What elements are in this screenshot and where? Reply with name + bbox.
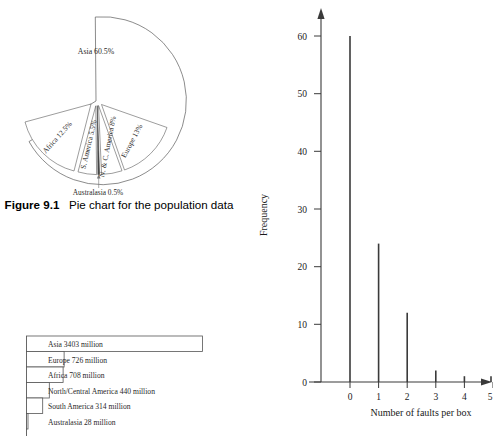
y-tick-label-10: 10 xyxy=(298,320,308,330)
figure-number-pie: Figure 9.1 xyxy=(5,198,60,211)
bar-label-europe: Europe 726 million xyxy=(48,356,107,365)
y-tick-label-60: 60 xyxy=(298,32,308,42)
page-canvas: Asia 60.5% Europe 13% N. & C. America 8%… xyxy=(0,0,493,444)
x-tick-label-2: 2 xyxy=(405,392,410,402)
pie-chart-svg: Asia 60.5% Europe 13% N. & C. America 8%… xyxy=(4,2,200,202)
y-tick-label-30: 30 xyxy=(298,205,308,215)
x-tick-label-3: 3 xyxy=(433,392,438,402)
figure-title-pie: Pie chart for the population data xyxy=(69,198,233,211)
y-tick-label-50: 50 xyxy=(298,89,308,99)
x-tick-label-5: 5 xyxy=(488,392,493,402)
x-tick-label-0: 0 xyxy=(348,392,353,402)
y-tick-label-20: 20 xyxy=(298,262,308,272)
y-tick-label-0: 0 xyxy=(302,378,307,388)
frequency-chart-svg: 0 10 20 30 40 50 60 0 1 2 3 4 5 xyxy=(245,0,493,444)
pie-chart-figure: Asia 60.5% Europe 13% N. & C. America 8%… xyxy=(0,0,245,250)
bar-label-south-america: South America 314 million xyxy=(48,402,131,411)
bar-label-australasia: Australasia 28 million xyxy=(48,418,116,427)
y-tick-label-40: 40 xyxy=(298,147,308,157)
population-bar-figure: Asia 3403 million Europe 726 million Afr… xyxy=(0,330,245,444)
pie-label-australasia: Australasia 0.5% xyxy=(73,188,124,197)
bar-label-north-central-america: North/Central America 440 million xyxy=(48,387,155,396)
bar-label-asia: Asia 3403 million xyxy=(48,340,103,349)
bar-label-africa: Africa 708 million xyxy=(48,371,105,380)
y-tick-marks xyxy=(314,36,321,382)
bar-row-north-central-america xyxy=(27,383,50,399)
x-axis-title: Number of faults per box xyxy=(370,407,471,418)
bar-row-australasia xyxy=(27,414,29,430)
x-tick-label-4: 4 xyxy=(462,392,467,402)
bar-row-south-america xyxy=(27,398,43,414)
y-axis-arrow-icon xyxy=(317,8,324,19)
figure-caption-pie: Figure 9.1 Pie chart for the population … xyxy=(0,198,238,213)
x-tick-marks xyxy=(350,382,493,388)
pie-label-asia: Asia 60.5% xyxy=(78,47,115,56)
y-axis-title: Frequency xyxy=(258,194,269,236)
frequency-chart-figure: 0 10 20 30 40 50 60 0 1 2 3 4 5 xyxy=(245,0,493,444)
x-tick-label-1: 1 xyxy=(376,392,381,402)
data-spikes xyxy=(350,36,491,382)
population-bar-svg: Asia 3403 million Europe 726 million Afr… xyxy=(0,330,245,444)
